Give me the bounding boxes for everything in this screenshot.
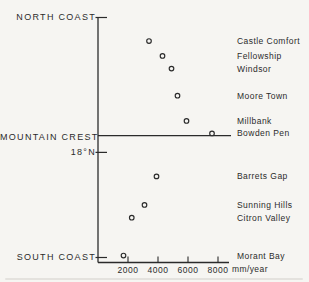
station-label-citron-valley: Citron Valley [237,213,290,223]
station-label-fellowship: Fellowship [237,51,282,61]
latitude-18n-label: 18°N [0,147,96,158]
station-point-fellowship [160,54,165,59]
station-point-millbank [184,119,189,124]
station-label-sunning-hills: Sunning Hills [237,200,292,210]
station-point-moore-town [175,93,180,98]
north-coast-label: NORTH COAST [0,12,96,23]
station-label-castle-comfort: Castle Comfort [237,36,300,46]
mountain-crest-label: MOUNTAIN CREST [0,132,96,143]
south-coast-label: SOUTH COAST [0,252,96,263]
station-label-millbank: Millbank [237,116,272,126]
station-label-windsor: Windsor [237,64,271,74]
station-label-moore-town: Moore Town [237,91,288,101]
scan-artifact [5,278,303,280]
station-point-bowden-pen [210,131,215,136]
station-point-windsor [169,66,174,71]
station-point-sunning-hills [142,203,147,208]
station-point-castle-comfort [147,39,152,44]
x-tick-label-8000: 8000 [202,265,234,275]
station-point-barrets-gap [154,174,159,179]
station-label-morant-bay: Morant Bay [237,251,285,261]
x-tick-label-2000: 2000 [112,265,144,275]
station-label-bowden-pen: Bowden Pen [237,128,290,138]
rainfall-transect-chart: NORTH COASTMOUNTAIN CREST18°NSOUTH COAST… [0,0,309,282]
x-axis-unit-label: mm/year [232,264,268,274]
station-label-barrets-gap: Barrets Gap [237,171,288,181]
station-point-morant-bay [121,253,126,258]
station-point-citron-valley [129,215,134,220]
x-tick-label-6000: 6000 [172,265,204,275]
x-tick-label-4000: 4000 [142,265,174,275]
